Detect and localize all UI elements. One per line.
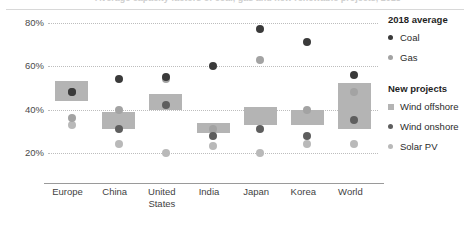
gridline <box>48 153 378 154</box>
chart-title-text: Average capacity factors of coal, gas an… <box>95 0 401 3</box>
data-point-coal <box>350 71 358 79</box>
y-axis-tick-label: 40% <box>25 104 44 115</box>
legend-item-wind-offshore[interactable]: Wind offshore <box>388 101 470 112</box>
y-axis-labels: 80%60%40%20% <box>0 14 44 166</box>
data-point-solar-pv <box>256 149 264 157</box>
data-point-solar-pv <box>350 140 358 148</box>
data-point-wind-onshore <box>115 125 123 133</box>
circle-icon <box>388 55 400 60</box>
legend-item-coal[interactable]: Coal <box>388 32 470 43</box>
x-axis-tick-label: World <box>322 186 378 198</box>
x-axis-line <box>44 183 384 184</box>
gridline <box>48 110 378 111</box>
data-point-wind-onshore <box>162 101 170 109</box>
data-point-solar-pv <box>303 140 311 148</box>
range-box-wind-offshore <box>244 107 277 124</box>
chart-root: Average capacity factors of coal, gas an… <box>0 0 470 241</box>
circle-icon <box>388 35 400 40</box>
legend-item-label: Wind onshore <box>400 121 459 132</box>
data-point-coal <box>209 62 217 70</box>
x-axis-labels: EuropeChinaUnited StatesIndiaJapanKoreaW… <box>44 186 384 226</box>
plot-area <box>48 14 378 166</box>
data-point-solar-pv <box>209 142 217 150</box>
legend-item-label: Coal <box>400 32 420 43</box>
data-point-coal <box>115 75 123 83</box>
data-point-coal <box>162 73 170 81</box>
data-point-solar-pv <box>162 149 170 157</box>
legend-item-label: Solar PV <box>400 141 438 152</box>
data-point-coal <box>68 88 76 96</box>
y-axis-tick-label: 20% <box>25 147 44 158</box>
legend-item-solar-pv[interactable]: Solar PV <box>388 141 470 152</box>
legend-item-wind-onshore[interactable]: Wind onshore <box>388 121 470 132</box>
y-axis-tick-label: 80% <box>25 17 44 28</box>
square-icon <box>388 104 400 110</box>
circle-icon <box>388 144 400 149</box>
legend-heading: 2018 average <box>388 14 470 25</box>
data-point-wind-onshore <box>303 132 311 140</box>
data-point-gas <box>68 114 76 122</box>
chart-title-cropped: Average capacity factors of coal, gas an… <box>0 0 470 9</box>
data-point-solar-pv <box>115 140 123 148</box>
y-axis-tick-label: 60% <box>25 60 44 71</box>
gridline <box>48 23 378 24</box>
data-point-gas <box>303 106 311 114</box>
circle-icon <box>388 124 400 129</box>
data-point-wind-onshore <box>256 125 264 133</box>
data-point-wind-onshore <box>209 132 217 140</box>
chart-legend: 2018 averageCoalGasNew projectsWind offs… <box>388 14 470 161</box>
data-point-coal <box>256 25 264 33</box>
data-point-coal <box>303 38 311 46</box>
legend-item-label: Gas <box>400 52 417 63</box>
legend-heading: New projects <box>388 83 470 94</box>
title-divider <box>6 9 464 10</box>
data-point-gas <box>115 106 123 114</box>
legend-item-label: Wind offshore <box>400 101 458 112</box>
legend-item-gas[interactable]: Gas <box>388 52 470 63</box>
data-point-gas <box>256 56 264 64</box>
